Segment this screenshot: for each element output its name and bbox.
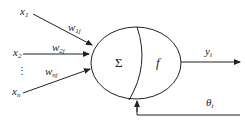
input-arrow-1 — [33, 14, 92, 45]
weight-label-wnj: wnj — [45, 66, 58, 79]
neuron-divider — [129, 27, 142, 100]
weight-label-w1j: w1j — [68, 22, 81, 35]
neuron-diagram: x1 x2 ⋮ xn w1j w2j wnj Σ f yi θi — [0, 0, 245, 120]
summation-symbol: Σ — [115, 56, 123, 69]
activation-function-label: f — [156, 56, 160, 69]
input-label-xn: xn — [12, 86, 20, 99]
output-label-yi: yi — [205, 46, 212, 59]
threshold-line — [137, 103, 240, 115]
input-label-x2: x2 — [13, 47, 21, 60]
input-ellipsis: ⋮ — [17, 66, 27, 76]
threshold-label-theta: θi — [206, 97, 213, 110]
input-label-x1: x1 — [20, 6, 28, 19]
neuron-body — [91, 27, 181, 99]
weight-label-w2j: w2j — [52, 42, 65, 55]
